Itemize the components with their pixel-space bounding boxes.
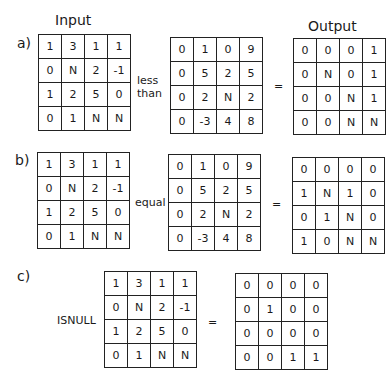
grid-cell: 1 (194, 38, 217, 62)
grid-cell: 0 (171, 38, 194, 62)
grid-cell: 8 (240, 110, 263, 134)
grid-cell: 2 (217, 62, 240, 86)
grid-row: 00NN (294, 111, 386, 135)
grid-cell: N (84, 225, 107, 249)
grid-cell: N (107, 225, 130, 249)
grid-cell: 0 (305, 322, 328, 346)
grid-cell: 0 (293, 158, 316, 182)
grid-cell: 0 (38, 177, 61, 201)
grid-cell: 0 (282, 298, 305, 322)
grid-cell: 1 (339, 182, 362, 206)
grid-cell: N (215, 203, 238, 227)
grid-cell: 2 (240, 86, 263, 110)
grid-cell: 1 (282, 346, 305, 370)
grid-cell: 1 (259, 298, 282, 322)
grid-cell: 0 (171, 86, 194, 110)
grid-cell: N (317, 63, 340, 87)
operator-line: less (137, 74, 162, 87)
grid-cell: 0 (236, 322, 259, 346)
grid-row: 0000 (236, 322, 328, 346)
grid-cell: 0 (169, 179, 192, 203)
grid-cell: 0 (317, 39, 340, 63)
grid-cell: 0 (236, 298, 259, 322)
grid-cell: N (339, 206, 362, 230)
output-header: Output (308, 18, 357, 34)
grid-cell: 5 (240, 62, 263, 86)
operator-line: equal (135, 196, 166, 209)
grid-row: 0109 (171, 38, 263, 62)
grid-cell: N (62, 59, 85, 83)
panel-a-operand-grid: 0109052502N20-348 (170, 37, 263, 134)
grid-cell: N (128, 296, 151, 320)
grid-cell: 0 (305, 298, 328, 322)
grid-row: 0N2-1 (39, 59, 131, 83)
grid-cell: 4 (215, 227, 238, 251)
grid-cell: 1 (363, 87, 386, 111)
grid-cell: 0 (174, 320, 197, 344)
grid-cell: 4 (217, 110, 240, 134)
grid-cell: 0 (105, 296, 128, 320)
grid-cell: 1 (293, 230, 316, 254)
grid-cell: 2 (84, 177, 107, 201)
grid-cell: N (61, 177, 84, 201)
grid-cell: 1 (39, 35, 62, 59)
grid-cell: 9 (240, 38, 263, 62)
grid-cell: N (85, 107, 108, 131)
grid-cell: 1 (107, 153, 130, 177)
grid-cell: 0 (316, 230, 339, 254)
grid-row: 0109 (169, 155, 261, 179)
grid-row: 1250 (39, 83, 131, 107)
grid-cell: 8 (238, 227, 261, 251)
grid-cell: 2 (85, 59, 108, 83)
grid-row: 01N0 (293, 206, 385, 230)
operator-line: ISNULL (57, 314, 96, 327)
grid-cell: 5 (192, 179, 215, 203)
grid-row: 0525 (171, 62, 263, 86)
grid-row: 02N2 (171, 86, 263, 110)
grid-cell: 0 (39, 59, 62, 83)
grid-cell: 0 (39, 107, 62, 131)
grid-cell: N (217, 86, 240, 110)
grid-row: 01NN (39, 107, 131, 131)
grid-row: 0525 (169, 179, 261, 203)
panel-a-input-grid: 13110N2-1125001NN (38, 34, 131, 131)
grid-row: 01NN (38, 225, 130, 249)
operator-line: than (137, 87, 162, 100)
grid-cell: 0 (362, 206, 385, 230)
grid-cell: -1 (107, 177, 130, 201)
grid-cell: 1 (316, 206, 339, 230)
panel-c-input-grid: 13110N2-1125001NN (104, 271, 197, 368)
grid-cell: 0 (293, 206, 316, 230)
grid-cell: 0 (317, 111, 340, 135)
grid-cell: 1 (128, 344, 151, 368)
grid-cell: 0 (38, 225, 61, 249)
grid-cell: 1 (85, 35, 108, 59)
grid-cell: 0 (171, 62, 194, 86)
grid-cell: 0 (282, 274, 305, 298)
grid-cell: 1 (84, 153, 107, 177)
grid-cell: N (316, 182, 339, 206)
grid-row: 0000 (293, 158, 385, 182)
grid-cell: 1 (108, 35, 131, 59)
grid-row: 1N10 (293, 182, 385, 206)
grid-row: 0000 (236, 274, 328, 298)
grid-row: 1311 (105, 272, 197, 296)
grid-row: 1250 (105, 320, 197, 344)
grid-cell: 0 (171, 110, 194, 134)
grid-row: 00N1 (294, 87, 386, 111)
grid-cell: 0 (215, 155, 238, 179)
grid-row: 0-348 (171, 110, 263, 134)
grid-cell: -3 (192, 227, 215, 251)
grid-cell: 2 (61, 201, 84, 225)
grid-cell: 2 (194, 86, 217, 110)
input-header: Input (55, 12, 91, 28)
grid-cell: 0 (105, 344, 128, 368)
panel-b-operator: equal (135, 196, 166, 209)
grid-row: 0N2-1 (38, 177, 130, 201)
grid-cell: 2 (62, 83, 85, 107)
grid-cell: 3 (61, 153, 84, 177)
grid-cell: 1 (38, 153, 61, 177)
grid-cell: -3 (194, 110, 217, 134)
grid-cell: 0 (259, 346, 282, 370)
grid-row: 0011 (236, 346, 328, 370)
